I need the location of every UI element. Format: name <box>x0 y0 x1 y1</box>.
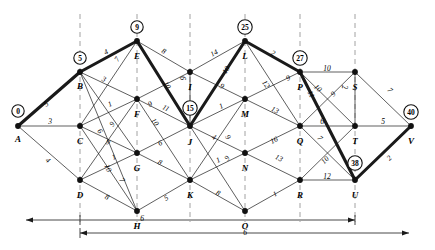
network-diagram-figure: ABCDEFGHIJKLMNOPQRSTUV059152527384053443… <box>0 0 435 250</box>
node-label-C: C <box>77 136 83 146</box>
node-label-V: V <box>408 136 414 146</box>
node-potential-value-V: 40 <box>407 108 415 117</box>
edge-N-R <box>245 153 300 180</box>
edge-G-J <box>137 126 190 153</box>
node-label-R: R <box>297 190 303 200</box>
node-dot-Q[interactable] <box>297 123 303 129</box>
node-label-P: P <box>297 82 303 92</box>
lower-scale-bar-label: 6 <box>243 228 247 237</box>
edge-weight-R-U: 12 <box>323 172 331 181</box>
node-dot-L[interactable] <box>242 38 248 44</box>
node-label-M: M <box>241 109 249 119</box>
node-potential-value-L: 25 <box>241 23 249 32</box>
lower-scale-bar-arrow-right <box>402 230 409 235</box>
node-label-F: F <box>134 109 140 119</box>
node-dot-G[interactable] <box>134 150 140 156</box>
node-label-S: S <box>352 82 357 92</box>
node-label-G: G <box>134 163 141 173</box>
edge-B-E <box>80 41 137 72</box>
edge-O-R <box>245 180 300 211</box>
edge-M-P <box>245 72 300 99</box>
node-label-H: H <box>133 221 140 231</box>
edge-G-K <box>137 153 190 180</box>
node-potential-value-U: 38 <box>351 159 359 168</box>
edge-weight-P-S: 10 <box>323 64 331 73</box>
edge-J-O <box>190 126 245 211</box>
node-dot-C[interactable] <box>77 123 83 129</box>
edge-weight-A-C: 3 <box>48 117 52 126</box>
upper-scale-bar-arrow-left <box>26 217 33 222</box>
upper-scale-bar-label: 6 <box>140 214 144 223</box>
edge-A-D <box>18 126 80 180</box>
node-dot-H[interactable] <box>134 208 140 214</box>
node-dot-A[interactable] <box>15 123 21 129</box>
edge-weight-I-J: 6 <box>178 76 187 80</box>
node-dot-D[interactable] <box>77 177 83 183</box>
node-label-B: B <box>77 81 83 91</box>
node-label-J: J <box>188 137 193 147</box>
edge-weight-S-T: 2 <box>340 85 349 89</box>
node-potential-value-J: 15 <box>186 104 194 113</box>
node-label-D: D <box>77 190 84 200</box>
node-dot-F[interactable] <box>134 96 140 102</box>
node-potential-value-E: 9 <box>135 23 139 32</box>
edge-weight-T-V: 5 <box>381 117 385 126</box>
node-label-E: E <box>134 51 140 61</box>
node-dot-J[interactable] <box>187 123 193 129</box>
node-dot-T[interactable] <box>352 123 358 129</box>
edge-weight-Q-T: 6 <box>320 117 324 126</box>
node-potential-value-A: 0 <box>16 107 20 116</box>
node-dot-O[interactable] <box>242 208 248 214</box>
node-potential-value-P: 27 <box>296 54 304 63</box>
upper-scale-bar-arrow-right <box>348 217 355 222</box>
edge-U-V <box>355 126 411 180</box>
node-label-Q: Q <box>297 136 304 146</box>
node-label-K: K <box>187 190 193 200</box>
node-label-T: T <box>352 136 358 146</box>
diagram-canvas <box>0 0 435 250</box>
node-dot-E[interactable] <box>134 38 140 44</box>
node-dot-B[interactable] <box>77 69 83 75</box>
node-dot-M[interactable] <box>242 96 248 102</box>
edge-B-F <box>80 72 137 99</box>
node-dot-P[interactable] <box>297 69 303 75</box>
node-label-A: A <box>15 134 21 144</box>
node-label-I: I <box>188 82 192 92</box>
node-dot-V[interactable] <box>408 123 414 129</box>
node-dot-U[interactable] <box>352 177 358 183</box>
node-potential-value-B: 5 <box>78 54 82 63</box>
node-dot-K[interactable] <box>187 177 193 183</box>
node-label-L: L <box>242 51 248 61</box>
node-label-U: U <box>352 190 359 200</box>
node-dot-S[interactable] <box>352 69 358 75</box>
lower-scale-bar-arrow-left <box>80 230 87 235</box>
node-dot-N[interactable] <box>242 150 248 156</box>
node-dot-R[interactable] <box>297 177 303 183</box>
node-label-N: N <box>242 163 249 173</box>
node-dot-I[interactable] <box>187 69 193 75</box>
